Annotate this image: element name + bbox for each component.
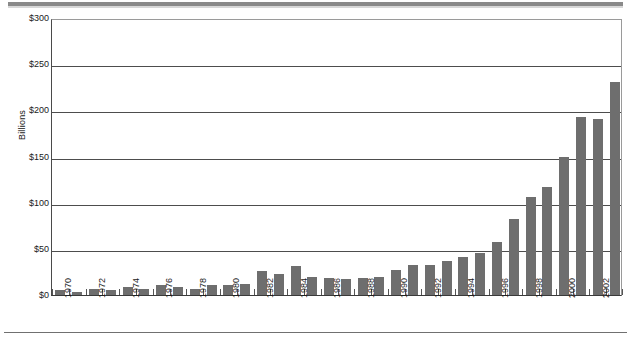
x-tickmark — [254, 289, 255, 295]
x-tickmark — [220, 289, 221, 295]
y-tick-label: $200 — [3, 106, 49, 115]
x-tick-label: 1988 — [366, 278, 376, 298]
bar — [576, 117, 586, 295]
x-tick-label: 2000 — [567, 278, 577, 298]
bar — [173, 287, 183, 295]
bar — [610, 82, 620, 295]
x-tickmark — [186, 289, 187, 295]
y-tick-label: $50 — [3, 245, 49, 254]
bar — [408, 265, 418, 295]
bar — [559, 157, 569, 296]
top-band-shadow — [8, 6, 623, 8]
x-tickmark — [354, 289, 355, 295]
bar — [240, 284, 250, 295]
x-tick-label: 1980 — [231, 278, 241, 298]
chart-page: Billions $0$50$100$150$200$250$300 19701… — [0, 0, 631, 338]
bottom-rule — [4, 332, 627, 333]
x-tickmark — [153, 289, 154, 295]
x-tickmark — [388, 289, 389, 295]
bar — [207, 285, 217, 295]
bar — [475, 253, 485, 295]
y-tick-label: $300 — [3, 14, 49, 23]
x-axis-tick-labels: 1970197219741976197819801982198419861988… — [51, 297, 622, 335]
y-tick-label: $100 — [3, 199, 49, 208]
x-tick-label: 1996 — [500, 278, 510, 298]
bar — [106, 290, 116, 295]
x-tick-label: 1972 — [97, 278, 107, 298]
y-tick-label: $0 — [3, 291, 49, 300]
x-tickmark — [421, 289, 422, 295]
x-tick-label: 1974 — [131, 278, 141, 298]
bar-series — [52, 20, 621, 295]
x-tickmark — [589, 289, 590, 295]
x-tickmark — [86, 289, 87, 295]
x-tickmark — [522, 289, 523, 295]
x-tickmark — [622, 289, 623, 295]
plot-area — [51, 19, 622, 296]
x-tickmark — [287, 289, 288, 295]
x-tick-label: 1982 — [265, 278, 275, 298]
y-axis-tick-labels: $0$50$100$150$200$250$300 — [0, 0, 49, 338]
x-tick-label: 1992 — [433, 278, 443, 298]
x-tickmark — [556, 289, 557, 295]
x-tickmark — [455, 289, 456, 295]
x-tick-label: 1978 — [198, 278, 208, 298]
x-tick-label: 1994 — [466, 278, 476, 298]
bar — [274, 274, 284, 295]
x-tickmark — [321, 289, 322, 295]
x-tick-label: 1998 — [534, 278, 544, 298]
x-tick-label: 2002 — [601, 278, 611, 298]
x-tick-label: 1984 — [299, 278, 309, 298]
x-tick-label: 1970 — [63, 278, 73, 298]
x-tickmark — [52, 289, 53, 295]
bar — [509, 219, 519, 295]
x-tick-label: 1990 — [399, 278, 409, 298]
x-tick-label: 1986 — [332, 278, 342, 298]
x-tickmark — [489, 289, 490, 295]
bar — [72, 292, 82, 295]
bar — [442, 261, 452, 295]
y-tick-label: $150 — [3, 153, 49, 162]
bar — [341, 279, 351, 295]
x-tick-label: 1976 — [164, 278, 174, 298]
bar — [593, 119, 603, 295]
x-tickmark — [119, 289, 120, 295]
y-tick-label: $250 — [3, 60, 49, 69]
